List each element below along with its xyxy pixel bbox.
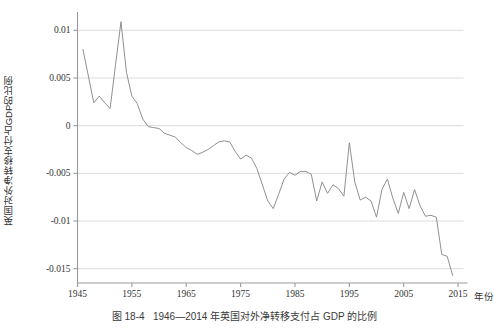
x-axis-tick-label: 1955 bbox=[122, 289, 141, 299]
x-axis-title: 年份 bbox=[474, 289, 494, 303]
y-axis-tick-label: 0.005 bbox=[20, 73, 71, 83]
chart-plot-area: 英国对外净转移支付占GDP的比例 年份 0.010.0050-0.005-0.0… bbox=[0, 0, 489, 300]
y-axis-title: 英国对外净转移支付占GDP的比例 bbox=[2, 75, 16, 226]
y-axis-tick-label: 0 bbox=[20, 121, 71, 131]
x-axis-tick-label: 1945 bbox=[68, 289, 87, 299]
x-axis-tick-label: 1995 bbox=[340, 289, 359, 299]
figure-caption: 图 18-4 1946—2014 年英国对外净转移支付占 GDP 的比例 bbox=[0, 308, 489, 323]
y-axis-tick-label: 0.01 bbox=[20, 25, 71, 35]
x-axis-tick-label: 1985 bbox=[285, 289, 304, 299]
y-axis-tick-label: -0.01 bbox=[20, 216, 71, 226]
data-line-0 bbox=[83, 22, 453, 276]
y-axis-tick-label: -0.015 bbox=[20, 264, 71, 274]
x-axis-tick-label: 2015 bbox=[449, 289, 468, 299]
y-axis-tick-label: -0.005 bbox=[20, 168, 71, 178]
x-axis-tick-label: 2005 bbox=[394, 289, 413, 299]
line-chart bbox=[0, 0, 489, 300]
x-axis-tick-label: 1975 bbox=[231, 289, 250, 299]
x-axis-tick-label: 1965 bbox=[177, 289, 196, 299]
